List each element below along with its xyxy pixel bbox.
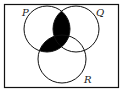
label-q: Q [96, 7, 104, 18]
label-r: R [83, 74, 92, 85]
label-p: P [21, 7, 29, 18]
venn-diagram: P Q R [0, 0, 123, 94]
